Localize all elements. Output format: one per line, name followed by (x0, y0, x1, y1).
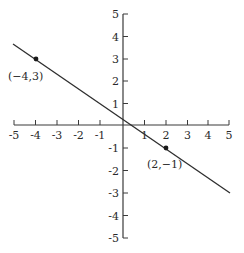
y-tick-label: -1 (108, 142, 119, 155)
plotted-line (13, 44, 230, 193)
point-neg4-3 (34, 57, 39, 62)
point-label-1: (−4,3) (8, 70, 43, 83)
x-tick-label: 2 (163, 129, 170, 142)
y-tick-label: 1 (112, 98, 119, 111)
x-tick-label: -1 (95, 129, 106, 142)
y-tick-label: 2 (112, 75, 119, 88)
x-tick-label: 5 (226, 129, 233, 142)
y-tick-labels: 5 4 3 2 1 -1 -2 -3 -4 -5 (108, 8, 119, 245)
x-tick-label: -2 (73, 129, 84, 142)
coordinate-plane-chart: -5 -4 -3 -2 -1 1 2 3 4 5 5 4 3 2 1 -1 -2… (0, 0, 244, 253)
x-tick-label: 4 (205, 129, 212, 142)
x-tick-label: 3 (184, 129, 191, 142)
point-label-2: (2,−1) (147, 158, 182, 171)
y-tick-label: 4 (112, 31, 119, 44)
y-tick-label: 3 (112, 53, 119, 66)
point-2-neg1 (164, 146, 169, 151)
x-tick-label: -3 (52, 129, 63, 142)
y-tick-label: -5 (108, 232, 119, 245)
x-ticks (14, 120, 229, 125)
y-tick-label: -3 (108, 187, 119, 200)
chart-svg: -5 -4 -3 -2 -1 1 2 3 4 5 5 4 3 2 1 -1 -2… (0, 0, 244, 253)
x-tick-label: -5 (9, 129, 20, 142)
y-tick-label: -4 (108, 210, 119, 223)
x-tick-labels: -5 -4 -3 -2 -1 1 2 3 4 5 (9, 129, 233, 142)
y-tick-label: -2 (108, 165, 119, 178)
y-ticks (123, 14, 128, 238)
x-tick-label: -4 (30, 129, 41, 142)
y-tick-label: 5 (112, 8, 119, 21)
